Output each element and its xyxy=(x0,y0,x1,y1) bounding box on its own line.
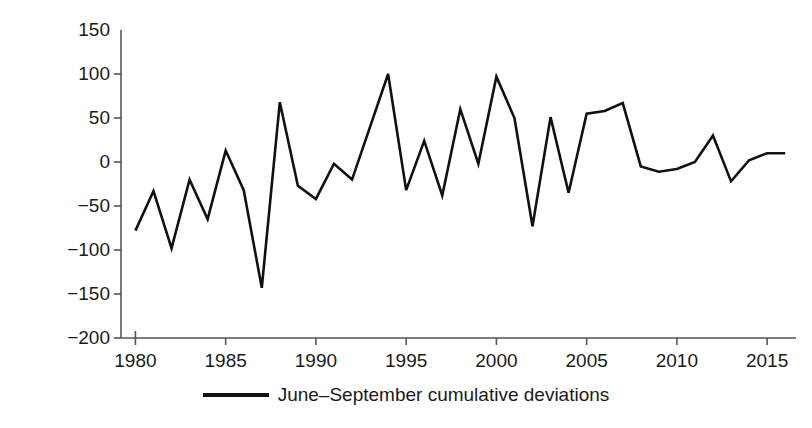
y-tick-label: −200 xyxy=(40,327,110,349)
x-tick-label: 2000 xyxy=(475,350,517,372)
y-tick-label: 100 xyxy=(40,63,110,85)
legend-line-swatch xyxy=(203,393,269,397)
x-tick-label: 1995 xyxy=(385,350,427,372)
axis-tick-marks xyxy=(114,74,767,345)
legend-label: June–September cumulative deviations xyxy=(278,384,610,406)
chart-legend: June–September cumulative deviations xyxy=(0,384,812,406)
y-tick-label: 0 xyxy=(40,151,110,173)
x-tick-label: 2010 xyxy=(656,350,698,372)
data-series-lines xyxy=(135,74,785,288)
y-tick-label: −100 xyxy=(40,239,110,261)
y-tick-label: 150 xyxy=(40,19,110,41)
axis-lines xyxy=(121,30,796,338)
y-tick-label: −150 xyxy=(40,283,110,305)
y-tick-label: −50 xyxy=(40,195,110,217)
y-tick-label: 50 xyxy=(40,107,110,129)
x-tick-label: 1985 xyxy=(205,350,247,372)
x-tick-label: 2005 xyxy=(566,350,608,372)
x-tick-label: 1980 xyxy=(114,350,156,372)
x-tick-label: 2015 xyxy=(746,350,788,372)
rainfall-deviations-chart: Rainfall (mm) 150100500−50−100−150−200 1… xyxy=(0,0,812,428)
x-tick-label: 1990 xyxy=(295,350,337,372)
